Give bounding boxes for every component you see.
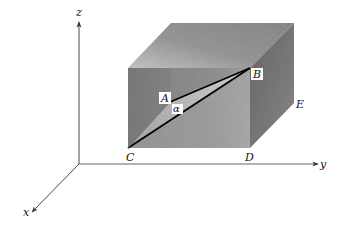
label-point-D: D <box>244 151 254 164</box>
label-point-B: B <box>252 68 261 81</box>
label-point-A: A <box>160 92 169 105</box>
x-axis <box>32 164 79 212</box>
label-point-E: E <box>295 98 304 111</box>
box <box>128 23 294 148</box>
label-x: x <box>23 206 30 219</box>
label-angle-alpha: α <box>173 103 180 114</box>
label-z: z <box>75 6 82 19</box>
label-point-C: C <box>126 151 135 164</box>
diagram-canvas: z y x A B C D E α <box>0 0 338 236</box>
label-y: y <box>319 158 327 171</box>
